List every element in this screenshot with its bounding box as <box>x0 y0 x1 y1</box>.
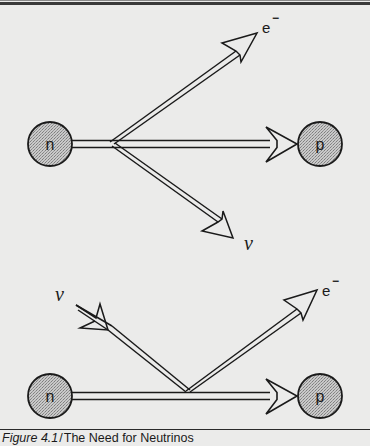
label-electron-bottom: e <box>322 282 330 299</box>
label-n-top: n <box>46 136 55 153</box>
label-electron-top-sup: − <box>272 11 279 25</box>
label-electron-top: e <box>262 19 270 36</box>
diagram-absorption <box>28 290 342 418</box>
caption-separator: / <box>59 431 62 445</box>
proton-arrow <box>72 127 297 162</box>
figure-caption: Figure 4.1/The Need for Neutrinos <box>2 431 194 445</box>
label-p-top: p <box>316 136 325 153</box>
label-neutrino-bottom: ν <box>55 283 64 305</box>
caption-rule <box>0 429 370 430</box>
caption-title: The Need for Neutrinos <box>64 431 194 445</box>
label-neutrino-top: ν <box>244 232 253 254</box>
label-p-bottom: p <box>316 388 325 405</box>
diagram-decay <box>28 33 342 238</box>
feynman-diagrams: n p n p e − ν ν e − <box>0 0 370 446</box>
neutrino-arrow <box>112 143 233 238</box>
label-n-bottom: n <box>46 388 55 405</box>
proton-arrow-2 <box>72 379 297 414</box>
electron-arrow <box>110 33 257 144</box>
incoming-neutrino-arrow <box>76 304 190 392</box>
electron-arrow-2 <box>186 290 317 392</box>
caption-figure-number: Figure 4.1 <box>2 431 58 445</box>
label-electron-bottom-sup: − <box>332 274 339 288</box>
